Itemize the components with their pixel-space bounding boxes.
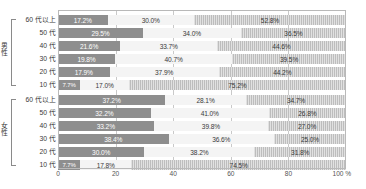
bar-row: 29.5%34.0%36.5% (58, 28, 346, 38)
category-label: 60 代以上 (10, 15, 56, 25)
bar-value-label: 25.0% (301, 136, 319, 143)
category-label: 20 代 (10, 67, 56, 77)
bars-male: 17.2%30.0%52.8%29.5%34.0%36.5%21.6%33.7%… (58, 10, 346, 89)
bar-value-label: 30.0% (142, 17, 160, 24)
category-label: 50 代 (10, 108, 56, 118)
bar-value-label: 39.8% (202, 123, 220, 130)
bar-value-label: 36.6% (212, 136, 230, 143)
bar-value-label: 74.5% (230, 162, 248, 169)
bar-segment-3: 39.5% (232, 54, 346, 64)
bar-segment-2: 28.1% (165, 95, 246, 105)
bar-value-label: 39.5% (280, 56, 298, 63)
bar-segment-1: 32.2% (58, 108, 151, 118)
category-axis: 男性 60 代以上 50 代 40 代 30 代 20 代 10 代 女性 60… (0, 10, 56, 169)
bar-row: 21.6%33.7%44.6% (58, 41, 346, 51)
bar-segment-3: 34.7% (246, 95, 346, 105)
bar-segment-1: 17.9% (58, 67, 110, 77)
bar-segment-1: 7.7% (58, 160, 80, 170)
bar-value-label: 32.2% (95, 110, 113, 117)
bar-row: 32.2%41.0%26.8% (58, 108, 346, 118)
bar-segment-2: 41.0% (151, 108, 269, 118)
bar-value-label: 44.2% (273, 69, 291, 76)
bar-row: 33.2%39.8%27.0% (58, 121, 346, 131)
bar-segment-1: 38.4% (58, 134, 169, 144)
bar-segment-2: 39.8% (154, 121, 269, 131)
bar-segment-2: 40.7% (115, 54, 232, 64)
bar-segment-1: 21.6% (58, 41, 120, 51)
bar-value-label: 30.0% (92, 149, 110, 156)
x-tick-label: 20 (112, 170, 119, 177)
bar-value-label: 38.2% (190, 149, 208, 156)
bar-value-label: 36.5% (284, 30, 302, 37)
x-tick-label: 40 (170, 170, 177, 177)
bar-value-label: 40.7% (165, 56, 183, 63)
group-label-male: 男性 (0, 42, 9, 57)
bar-value-label: 38.4% (104, 136, 122, 143)
bar-segment-2: 37.9% (110, 67, 219, 77)
category-label: 60 代以上 (10, 95, 56, 105)
bar-value-label: 52.8% (261, 17, 279, 24)
x-tick-label: 0 (56, 170, 60, 177)
bar-value-label: 31.8% (291, 149, 309, 156)
x-tick-label: 100 % (333, 170, 352, 177)
bar-row: 30.0%38.2%31.8% (58, 147, 346, 157)
group-label-female: 女性 (0, 122, 9, 137)
bar-value-label: 34.7% (287, 97, 305, 104)
x-tick-label: 80 (285, 170, 292, 177)
bar-segment-3: 25.0% (274, 134, 346, 144)
bar-value-label: 75.2% (228, 82, 246, 89)
bar-row: 19.8%40.7%39.5% (58, 54, 346, 64)
category-label: 30 代 (10, 134, 56, 144)
bar-row: 7.7%17.8%74.5% (58, 160, 346, 170)
bar-value-label: 33.7% (160, 43, 178, 50)
bar-value-label: 17.2% (74, 17, 92, 24)
bar-segment-3: 27.0% (268, 121, 346, 131)
bar-value-label: 29.5% (91, 30, 109, 37)
bar-value-label: 41.0% (201, 110, 219, 117)
bar-value-label: 27.0% (298, 123, 316, 130)
bar-value-label: 7.7% (62, 82, 75, 88)
bar-segment-3: 74.5% (131, 160, 346, 170)
bar-value-label: 17.9% (75, 69, 93, 76)
bar-segment-3: 26.8% (269, 108, 346, 118)
bar-row: 38.4%36.6%25.0% (58, 134, 346, 144)
bar-value-label: 33.2% (97, 123, 115, 130)
bar-value-label: 17.8% (97, 162, 115, 169)
category-label: 30 代 (10, 54, 56, 64)
bar-value-label: 37.9% (155, 69, 173, 76)
bar-segment-1: 37.2% (58, 95, 165, 105)
bar-row: 17.9%37.9%44.2% (58, 67, 346, 77)
bar-segment-1: 19.8% (58, 54, 115, 64)
bar-segment-2: 34.0% (143, 28, 241, 38)
group-male: 男性 60 代以上 50 代 40 代 30 代 20 代 10 代 (0, 10, 56, 89)
plot-area: 17.2%30.0%52.8%29.5%34.0%36.5%21.6%33.7%… (58, 10, 346, 169)
bar-segment-3: 36.5% (241, 28, 346, 38)
value-axis: 020406080100 % (58, 170, 346, 184)
bar-segment-1: 33.2% (58, 121, 154, 131)
bar-value-label: 17.0% (96, 82, 114, 89)
bar-segment-2: 30.0% (108, 15, 194, 25)
bar-segment-2: 33.7% (120, 41, 217, 51)
bar-value-label: 7.7% (62, 162, 75, 168)
bar-segment-1: 17.2% (58, 15, 108, 25)
bar-segment-3: 44.6% (217, 41, 345, 51)
category-label: 40 代 (10, 41, 56, 51)
bar-value-label: 28.1% (196, 97, 214, 104)
x-tick-label: 60 (227, 170, 234, 177)
category-label: 20 代 (10, 147, 56, 157)
bar-segment-3: 31.8% (254, 147, 346, 157)
bar-value-label: 44.6% (272, 43, 290, 50)
bar-value-label: 37.2% (102, 97, 120, 104)
bar-segment-1: 29.5% (58, 28, 143, 38)
bar-row: 17.2%30.0%52.8% (58, 15, 346, 25)
bars-female: 37.2%28.1%34.7%32.2%41.0%26.8%33.2%39.8%… (58, 89, 346, 169)
category-label: 50 代 (10, 28, 56, 38)
bar-value-label: 26.8% (298, 110, 316, 117)
category-label: 40 代 (10, 121, 56, 131)
category-label: 10 代 (10, 160, 56, 170)
group-female: 女性 60 代以上 50 代 40 代 30 代 20 代 10 代 (0, 89, 56, 169)
bar-value-label: 19.8% (77, 56, 95, 63)
bar-segment-1: 30.0% (58, 147, 144, 157)
bar-segment-2: 17.8% (80, 160, 131, 170)
bar-value-label: 34.0% (183, 30, 201, 37)
